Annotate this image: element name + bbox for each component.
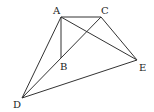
segment-AD [22,17,61,98]
geometry-diagram: ACBED [0,0,154,112]
point-label-A: A [52,5,61,16]
point-label-D: D [13,99,21,110]
point-label-E: E [139,62,146,73]
segment-AE [61,17,137,60]
point-label-B: B [60,61,67,72]
segment-DE [22,60,137,98]
point-label-C: C [101,5,109,16]
diagram-canvas: ACBED [0,0,154,112]
segment-CE [101,17,137,60]
